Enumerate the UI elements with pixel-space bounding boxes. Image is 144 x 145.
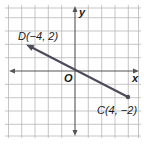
point-c-dot (126, 95, 130, 99)
point-c-label: C(4, −2) (97, 104, 137, 116)
line-dc (26, 45, 130, 100)
x-axis-label: x (131, 72, 139, 84)
origin-label: O (64, 72, 73, 84)
point-d-label: D(−4, 2) (18, 30, 58, 42)
y-axis-label: y (78, 6, 86, 18)
coordinate-plane-figure: y x O D(−4, 2) C(4, −2) (0, 0, 144, 145)
